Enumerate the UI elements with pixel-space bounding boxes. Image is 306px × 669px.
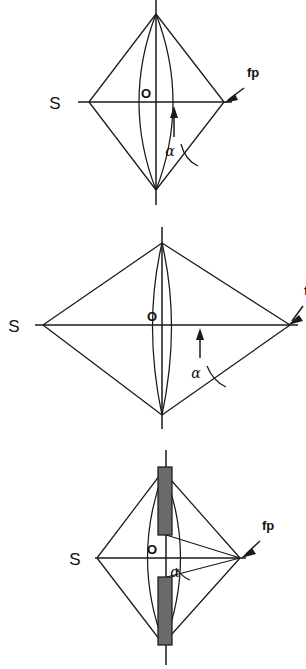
center-label: O bbox=[147, 309, 157, 324]
lens-left-surface bbox=[153, 243, 163, 415]
angle-label: α bbox=[170, 564, 180, 580]
source-label: S bbox=[69, 550, 80, 569]
lens-right-surface bbox=[162, 243, 172, 415]
angle-arrow-head-icon bbox=[196, 328, 204, 340]
ray-source-lower bbox=[43, 325, 162, 415]
center-label: O bbox=[141, 86, 151, 101]
ray-focal-upper bbox=[156, 14, 224, 102]
angle-label: α bbox=[165, 143, 175, 159]
angle-label: α bbox=[191, 365, 201, 381]
ray-focal-upper-restricted bbox=[163, 534, 240, 558]
ray-source-lower bbox=[89, 102, 156, 190]
ray-source-upper bbox=[43, 243, 162, 325]
center-label: O bbox=[147, 542, 157, 557]
diagram-panel-wide-aperture: S O f α bbox=[0, 223, 306, 446]
angle-arrow-head-icon bbox=[170, 106, 178, 118]
aperture-stop-lower-bar bbox=[158, 577, 172, 645]
diagram-panel-stopped-down-aperture: S O fp α bbox=[0, 446, 306, 669]
focal-point-label: fp bbox=[262, 518, 274, 533]
focal-point-label: fp bbox=[247, 65, 259, 80]
ray-focal-upper-outer bbox=[163, 471, 240, 558]
source-label: S bbox=[8, 317, 19, 336]
fp-pointer-head-icon bbox=[241, 548, 256, 558]
aperture-stop-upper-bar bbox=[158, 467, 172, 535]
ray-focal-lower bbox=[162, 325, 290, 415]
ray-focal-upper bbox=[162, 243, 290, 325]
diagram-panel-moderate-aperture: S O fp α bbox=[0, 0, 306, 223]
source-label: S bbox=[49, 94, 60, 113]
ray-source-lower bbox=[97, 558, 163, 644]
figure-root: S O fp α S O f α bbox=[0, 0, 306, 669]
focal-point-label: f bbox=[304, 283, 306, 298]
